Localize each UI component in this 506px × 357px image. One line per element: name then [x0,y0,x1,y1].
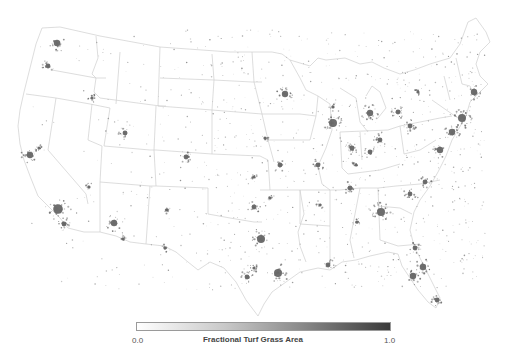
legend-max-label: 1.0 [384,336,395,345]
legend-colorbar [136,322,391,331]
us-turf-grass-map [0,0,506,320]
legend-title: Fractional Turf Grass Area [0,335,506,344]
